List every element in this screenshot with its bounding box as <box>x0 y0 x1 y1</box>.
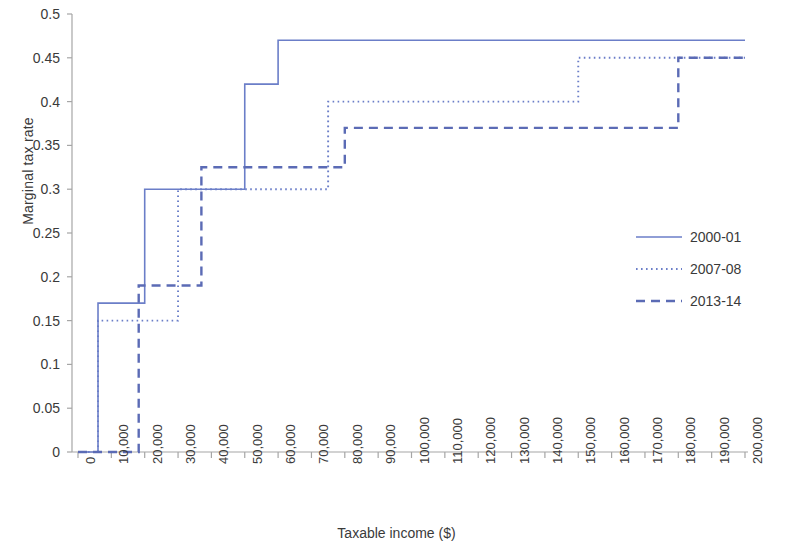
chart-plot-area <box>0 0 793 549</box>
x-axis-tick-label: 150,000 <box>584 417 598 464</box>
x-axis-tick-label: 100,000 <box>418 417 432 464</box>
marginal-tax-rate-chart: 00.050.10.150.20.250.30.350.40.450.5 010… <box>0 0 793 549</box>
axes <box>67 14 748 458</box>
x-axis-tick-label: 130,000 <box>518 417 532 464</box>
x-axis-tick-label: 180,000 <box>684 417 698 464</box>
x-axis-tick-label: 0 <box>84 457 98 464</box>
x-axis-tick-label: 120,000 <box>484 417 498 464</box>
x-axis-tick-label: 110,000 <box>451 418 465 464</box>
series-line-2007-08 <box>78 58 745 452</box>
x-axis-tick-label: 50,000 <box>251 424 265 464</box>
x-axis-tick-label: 160,000 <box>618 417 632 464</box>
legend-label-2000-01: 2000-01 <box>690 229 741 245</box>
x-axis-tick-label: 90,000 <box>384 424 398 464</box>
y-axis-tick-label: 0.05 <box>14 400 60 416</box>
x-axis-tick-label: 170,000 <box>651 417 665 464</box>
x-axis-tick-label: 80,000 <box>351 424 365 464</box>
legend-label-2007-08: 2007-08 <box>690 261 741 277</box>
x-axis-tick-label: 20,000 <box>151 424 165 464</box>
x-axis-tick-label: 40,000 <box>217 424 231 464</box>
x-axis-tick-label: 60,000 <box>284 424 298 464</box>
series-line-2013-14 <box>78 58 745 452</box>
x-axis-tick-label: 140,000 <box>551 417 565 464</box>
y-axis-tick-label: 0 <box>14 444 60 460</box>
x-axis-tick-label: 70,000 <box>317 424 331 464</box>
x-axis-tick-label: 200,000 <box>751 417 765 464</box>
legend-line-samples <box>636 237 682 301</box>
x-axis-tick-label: 190,000 <box>718 417 732 464</box>
legend-label-2013-14: 2013-14 <box>690 293 741 309</box>
x-axis-title: Taxable income ($) <box>0 525 793 541</box>
y-axis-tick-label: 0.2 <box>14 269 60 285</box>
x-axis-tick-label: 30,000 <box>184 424 198 464</box>
data-series <box>78 40 745 452</box>
y-axis-tick-label: 0.5 <box>14 6 60 22</box>
y-axis-title: Marginal tax rate <box>20 117 36 225</box>
y-axis-tick-label: 0.45 <box>14 50 60 66</box>
y-axis-tick-label: 0.1 <box>14 356 60 372</box>
y-axis-title-wrap: Marginal tax rate <box>19 81 41 261</box>
y-axis-tick-label: 0.15 <box>14 313 60 329</box>
x-axis-tick-label: 10,000 <box>117 424 131 464</box>
